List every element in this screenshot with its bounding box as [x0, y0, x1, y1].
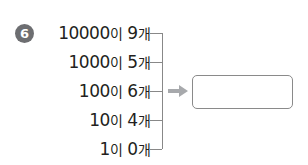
row-tens: 10이 4개: [89, 110, 150, 131]
row-unit: 개: [138, 84, 151, 100]
bracket-tick: [150, 33, 162, 34]
row-particle: 이: [110, 142, 123, 158]
row-unit: 개: [138, 26, 151, 42]
bracket-tick: [150, 62, 162, 63]
row-unit: 개: [138, 113, 151, 129]
bracket-tick: [150, 91, 162, 92]
bracket-line: [162, 33, 163, 149]
row-unit: 개: [138, 55, 151, 71]
row-ten-thousands: 10000이 9개: [58, 23, 150, 44]
problem-number-badge: 6: [15, 24, 34, 43]
row-hundreds: 100이 6개: [79, 81, 150, 102]
row-base: 100: [79, 81, 110, 101]
row-ones: 1이 0개: [99, 139, 150, 160]
row-base: 10: [89, 110, 110, 130]
row-particle: 이: [110, 55, 123, 71]
row-unit: 개: [138, 142, 151, 158]
row-base: 10000: [58, 23, 110, 43]
row-count: 6: [127, 81, 137, 101]
row-thousands: 1000이 5개: [69, 52, 151, 73]
row-count: 9: [127, 23, 137, 43]
row-count: 4: [127, 110, 137, 130]
row-base: 1: [99, 139, 109, 159]
row-particle: 이: [110, 26, 123, 42]
arrow-right-icon: [167, 84, 189, 98]
bracket-tick: [150, 149, 162, 150]
row-base: 1000: [69, 52, 110, 72]
answer-box[interactable]: [192, 75, 293, 109]
row-particle: 이: [110, 84, 123, 100]
row-count: 0: [127, 139, 137, 159]
row-count: 5: [127, 52, 137, 72]
bracket-tick: [150, 120, 162, 121]
row-particle: 이: [110, 113, 123, 129]
